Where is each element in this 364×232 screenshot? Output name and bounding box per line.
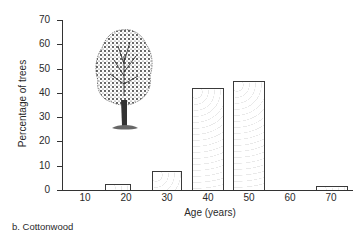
y-tick (57, 44, 62, 45)
x-tick-label: 10 (75, 193, 95, 203)
y-tick (57, 93, 62, 94)
y-tick-label: 30 (28, 112, 50, 122)
bar-age-20 (105, 184, 131, 190)
bar-age-30 (152, 171, 182, 190)
x-tick-label: 70 (321, 193, 341, 203)
x-tick-label: 50 (239, 193, 259, 203)
y-tick (57, 190, 62, 191)
y-axis-title: Percentage of trees (17, 54, 28, 154)
y-tick (57, 69, 62, 70)
x-tick-label: 60 (280, 193, 300, 203)
bar-age-50 (233, 81, 265, 190)
x-tick-label: 40 (198, 193, 218, 203)
y-tick-label: 60 (28, 39, 50, 49)
x-axis-line (57, 190, 353, 191)
x-tick-label: 20 (116, 193, 136, 203)
y-tick (57, 20, 62, 21)
bar-age-40 (192, 88, 224, 190)
y-tick (57, 141, 62, 142)
x-tick-label: 30 (157, 193, 177, 203)
figure-caption: b. Cottonwood (12, 221, 73, 232)
x-axis-title: Age (years) (178, 207, 242, 218)
y-tick-label: 0 (28, 185, 50, 195)
y-tick-label: 40 (28, 88, 50, 98)
y-tick-label: 10 (28, 161, 50, 171)
y-tick-label: 20 (28, 136, 50, 146)
y-tick-label: 50 (28, 64, 50, 74)
y-tick-label: 70 (28, 15, 50, 25)
y-axis-line (62, 20, 63, 191)
y-tick (57, 166, 62, 167)
bar-age-70 (316, 186, 348, 190)
y-tick (57, 117, 62, 118)
tree-illustration-icon (92, 26, 156, 134)
